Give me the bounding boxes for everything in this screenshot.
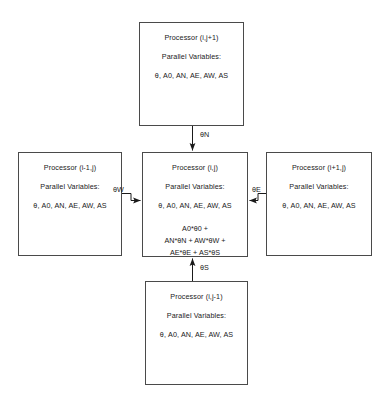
formula-line-1: A0*θ0 + xyxy=(143,223,247,235)
processor-box-center: Processor (i,j) Parallel Variables: θ, A… xyxy=(142,152,248,257)
parallel-variables-heading: Parallel Variables: xyxy=(267,183,371,190)
processor-box-east: Processor (i+1,j) Parallel Variables: θ,… xyxy=(266,152,372,256)
processor-box-west: Processor (i-1,j) Parallel Variables: θ,… xyxy=(18,152,122,256)
parallel-variables-heading: Parallel Variables: xyxy=(140,53,243,60)
parallel-variables-heading: Parallel Variables: xyxy=(19,183,121,190)
processor-name: Processor (i,j) xyxy=(143,164,247,171)
processor-name: Processor (i,j+1) xyxy=(140,34,243,41)
parallel-variables-list: θ, A0, AN, AE, AW, AS xyxy=(140,72,243,79)
parallel-variables-list: θ, A0, AN, AE, AW, AS xyxy=(267,202,371,209)
parallel-variables-list: θ, A0, AN, AE, AW, AS xyxy=(19,202,121,209)
arrow-label-north: θN xyxy=(200,131,209,138)
arrow-label-east: θE xyxy=(252,186,261,193)
arrow-label-west: θW xyxy=(113,186,124,193)
arrow-label-south: θS xyxy=(200,264,209,271)
processor-box-north: Processor (i,j+1) Parallel Variables: θ,… xyxy=(139,22,244,126)
processor-box-south: Processor (i,j-1) Parallel Variables: θ,… xyxy=(145,281,248,385)
processor-name: Processor (i,j-1) xyxy=(146,293,247,300)
parallel-variables-heading: Parallel Variables: xyxy=(146,312,247,319)
formula-line-2: AN*θN + AW*θW + xyxy=(143,235,247,247)
parallel-variables-list: θ, A0, AN, AE, AW, AS xyxy=(146,331,247,338)
parallel-variables-list: θ, A0, AN, AE, AW, AS xyxy=(143,202,247,209)
processor-name: Processor (i-1,j) xyxy=(19,164,121,171)
parallel-variables-heading: Parallel Variables: xyxy=(143,183,247,190)
arrow-east xyxy=(250,194,267,201)
update-formula: A0*θ0 + AN*θN + AW*θW + AE*θE + AS*θS xyxy=(143,223,247,260)
arrow-west xyxy=(122,194,141,201)
processor-name: Processor (i+1,j) xyxy=(267,164,371,171)
formula-line-3: AE*θE + AS*θS xyxy=(143,247,247,259)
